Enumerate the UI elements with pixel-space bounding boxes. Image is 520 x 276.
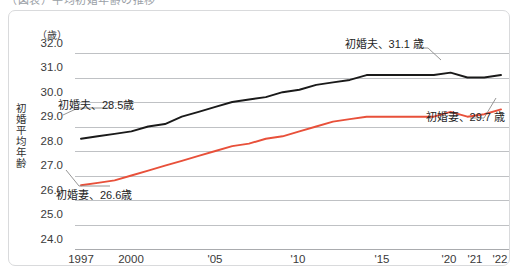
x-tick-label: 1997 (68, 253, 94, 265)
cut-off-caption: （図表）平均初婚年齢の推移 (0, 0, 520, 9)
plot-area (75, 53, 509, 249)
y-tick-label: 28.0 (29, 135, 63, 147)
y-tick-label: 27.0 (29, 159, 63, 171)
annotation-wife-start: 初婚妻、26.6歳 (56, 186, 132, 202)
gridline-24-baseline (75, 249, 509, 250)
y-tick-label: 32.0 (29, 37, 63, 49)
x-tick-label: '21 (468, 253, 483, 265)
x-tick-label: '22 (493, 253, 508, 265)
series-layer (75, 53, 509, 249)
x-tick-label: 2000 (118, 253, 144, 265)
annotation-husband-start: 初婚夫、28.5歳 (58, 96, 134, 112)
y-tick-label: 24.0 (29, 233, 63, 245)
x-tick-label: '20 (442, 253, 457, 265)
y-tick-label: 31.0 (29, 61, 63, 73)
caption-text: （図表）平均初婚年齢の推移 (6, 0, 156, 7)
y-tick-label: 25.0 (29, 208, 63, 220)
chart-root: （図表）平均初婚年齢の推移 （歳） 初婚平均年齢 32.0 31.0 30.0 … (0, 0, 520, 276)
x-tick-label: '10 (291, 253, 306, 265)
line-series-husband (81, 73, 501, 139)
annotation-husband-end: 初婚夫、31.1 歳 (345, 35, 424, 51)
chart-panel: （歳） 初婚平均年齢 32.0 31.0 30.0 29.0 28.0 27.0… (8, 10, 510, 266)
annotation-wife-end: 初婚妻、29.7 歳 (426, 108, 505, 124)
x-tick-label: '05 (208, 253, 223, 265)
x-tick-label: '15 (375, 253, 390, 265)
